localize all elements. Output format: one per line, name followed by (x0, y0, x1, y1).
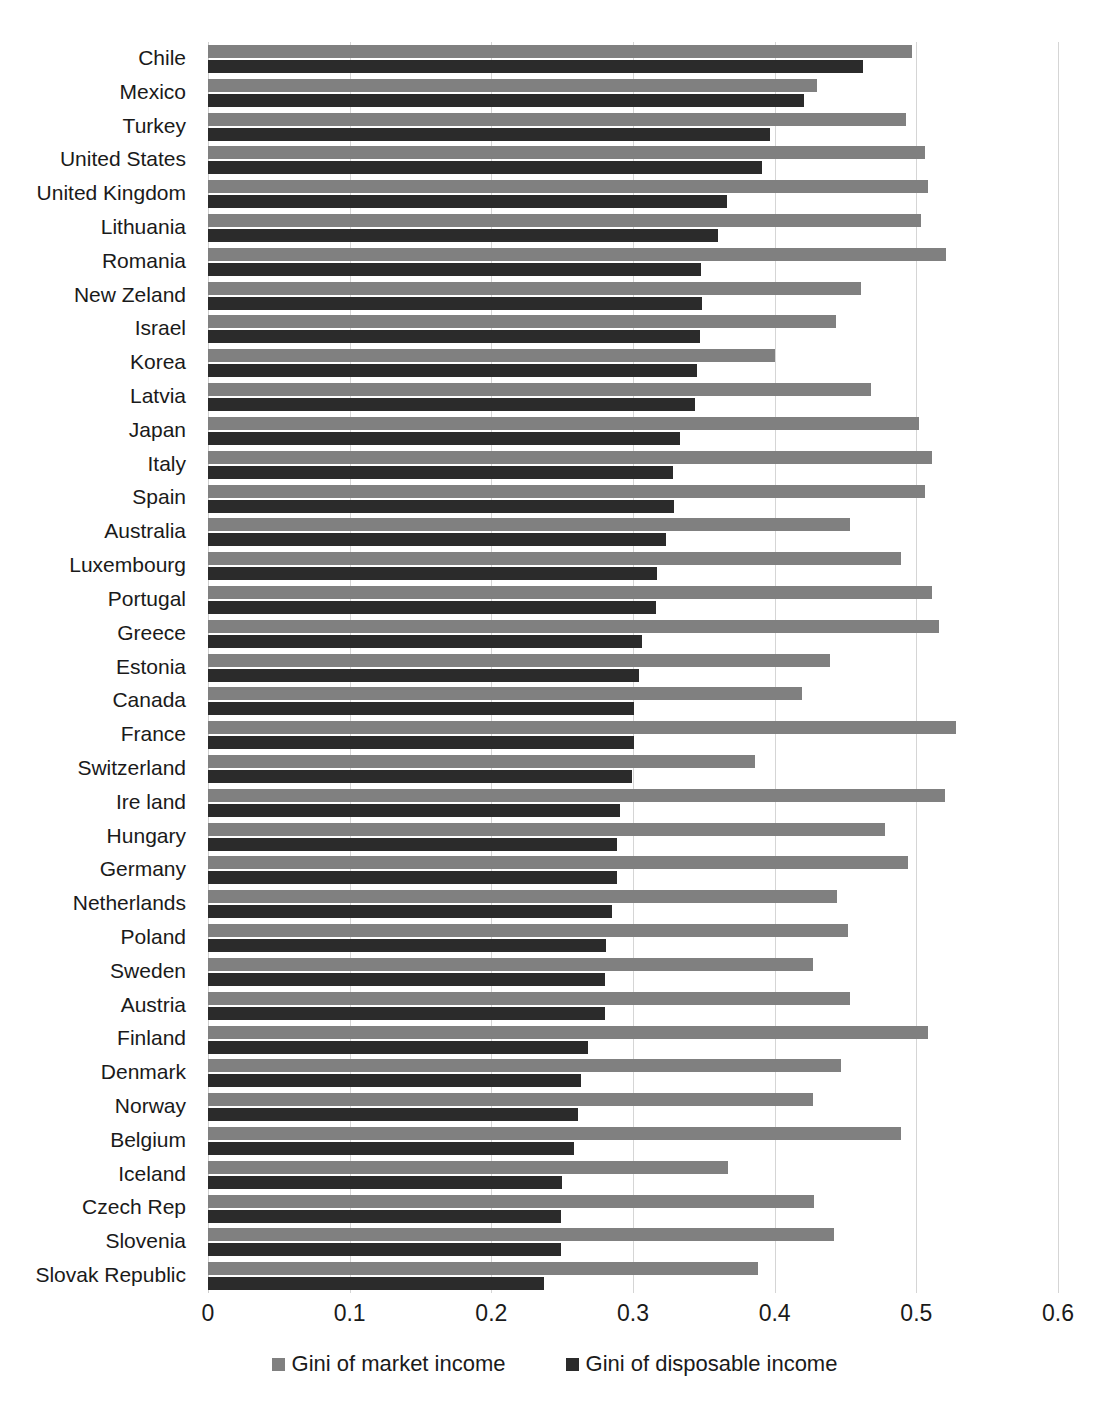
bar-group (208, 383, 1058, 417)
bar-group (208, 180, 1058, 214)
x-tick-label: 0.3 (617, 1300, 649, 1326)
bar-market-income (208, 451, 932, 464)
category-label: Czech Rep (82, 1196, 186, 1217)
category-label: Germany (100, 858, 186, 879)
bar-group (208, 1161, 1058, 1195)
bar-disposable-income (208, 364, 697, 377)
bar-market-income (208, 79, 817, 92)
bar-market-income (208, 924, 848, 937)
bar-market-income (208, 789, 945, 802)
bar-group (208, 1262, 1058, 1296)
bar-disposable-income (208, 1176, 562, 1189)
bar-disposable-income (208, 1041, 588, 1054)
bar-market-income (208, 1026, 928, 1039)
bar-market-income (208, 721, 956, 734)
bar-market-income (208, 518, 850, 531)
bar-group (208, 992, 1058, 1026)
category-label: Norway (115, 1095, 186, 1116)
bar-group (208, 654, 1058, 688)
bar-group (208, 789, 1058, 823)
bar-market-income (208, 890, 837, 903)
bar-disposable-income (208, 60, 863, 73)
bar-market-income (208, 248, 946, 261)
bar-disposable-income (208, 702, 634, 715)
bar-disposable-income (208, 229, 718, 242)
category-label: Canada (112, 689, 186, 710)
bar-group (208, 349, 1058, 383)
bar-market-income (208, 180, 928, 193)
x-tick-label: 0 (202, 1300, 215, 1326)
bar-disposable-income (208, 330, 700, 343)
bar-group (208, 958, 1058, 992)
bar-market-income (208, 1093, 813, 1106)
bar-group (208, 823, 1058, 857)
bar-market-income (208, 1262, 758, 1275)
bar-group (208, 586, 1058, 620)
category-label: Italy (147, 453, 186, 474)
bar-market-income (208, 1059, 841, 1072)
legend-label: Gini of market income (292, 1352, 506, 1376)
bar-market-income (208, 1161, 728, 1174)
bar-market-income (208, 349, 775, 362)
bar-group (208, 924, 1058, 958)
category-label: Slovenia (105, 1230, 186, 1251)
bar-market-income (208, 654, 830, 667)
bar-market-income (208, 383, 871, 396)
bar-group (208, 1026, 1058, 1060)
legend-item[interactable]: Gini of disposable income (566, 1352, 838, 1376)
bar-disposable-income (208, 939, 606, 952)
category-label: Chile (138, 47, 186, 68)
bar-market-income (208, 282, 861, 295)
bar-market-income (208, 992, 850, 1005)
bar-disposable-income (208, 1142, 574, 1155)
x-tick-label: 0.2 (475, 1300, 507, 1326)
bar-group (208, 248, 1058, 282)
bar-group (208, 856, 1058, 890)
x-tick-label: 0.5 (900, 1300, 932, 1326)
bar-market-income (208, 552, 901, 565)
bar-disposable-income (208, 838, 617, 851)
bar-group (208, 687, 1058, 721)
category-label: Poland (121, 926, 186, 947)
x-tick-label: 0.4 (759, 1300, 791, 1326)
bar-market-income (208, 315, 836, 328)
bar-series-container (208, 42, 1058, 1293)
bar-market-income (208, 45, 912, 58)
legend-item[interactable]: Gini of market income (272, 1352, 506, 1376)
category-label: Greece (117, 622, 186, 643)
bar-disposable-income (208, 905, 612, 918)
bar-disposable-income (208, 533, 666, 546)
category-label: United Kingdom (37, 182, 186, 203)
category-label: Spain (132, 486, 186, 507)
bar-group (208, 518, 1058, 552)
bar-group (208, 417, 1058, 451)
bar-market-income (208, 214, 921, 227)
x-tick-label: 0.6 (1042, 1300, 1074, 1326)
bar-disposable-income (208, 871, 617, 884)
bar-disposable-income (208, 1210, 561, 1223)
legend-swatch-icon (272, 1358, 285, 1371)
bar-market-income (208, 1228, 834, 1241)
bar-market-income (208, 856, 908, 869)
bar-market-income (208, 146, 925, 159)
bar-group (208, 282, 1058, 316)
bar-group (208, 45, 1058, 79)
bar-group (208, 451, 1058, 485)
bar-disposable-income (208, 669, 639, 682)
category-label: Belgium (110, 1129, 186, 1150)
bar-disposable-income (208, 736, 634, 749)
bar-market-income (208, 417, 919, 430)
bar-group (208, 146, 1058, 180)
bar-disposable-income (208, 1074, 581, 1087)
legend-label: Gini of disposable income (586, 1352, 838, 1376)
gini-bar-chart: ChileMexicoTurkeyUnited StatesUnited Kin… (0, 0, 1109, 1410)
category-label: Denmark (101, 1061, 186, 1082)
category-label: France (121, 723, 186, 744)
category-label: Japan (129, 419, 186, 440)
category-label: Latvia (130, 385, 186, 406)
bar-group (208, 315, 1058, 349)
bar-disposable-income (208, 500, 674, 513)
category-label: Austria (121, 994, 186, 1015)
category-label: Mexico (119, 81, 186, 102)
bar-group (208, 721, 1058, 755)
